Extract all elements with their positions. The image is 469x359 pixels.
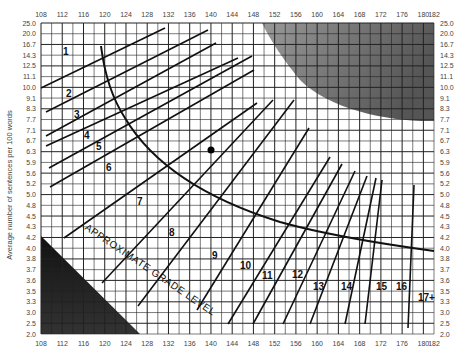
y-tick-label: 7.7 — [26, 116, 36, 123]
y-tick-label: 5.9 — [440, 159, 450, 166]
y-tick-label: 4.5 — [26, 213, 36, 220]
x-tick-label: 112 — [57, 340, 68, 347]
grade-label-1: 1 — [63, 46, 69, 57]
y-tick-label: 6.3 — [440, 148, 450, 155]
y-tick-label: 4.2 — [440, 234, 450, 241]
y-tick-label: 14.3 — [22, 52, 36, 59]
y-tick-label: 5.2 — [440, 180, 450, 187]
y-tick-label: 12.5 — [22, 62, 36, 69]
grade-line-2 — [46, 30, 208, 112]
grade-label-7: 7 — [137, 196, 143, 207]
grade-label-3: 3 — [74, 109, 80, 120]
x-tick-label: 140 — [205, 11, 217, 18]
y-tick-label: 25.0 — [22, 20, 36, 27]
y-axis-right: 25.020.016.714.312.511.110.09.18.37.77.1… — [440, 20, 454, 338]
grade-line-11 — [228, 157, 330, 324]
y-tick-label: 3.0 — [440, 309, 450, 316]
y-tick-label: 6.7 — [440, 137, 450, 144]
x-tick-label: 112 — [57, 11, 68, 18]
grade-label-6: 6 — [106, 162, 112, 173]
x-tick-label: 120 — [99, 11, 111, 18]
fry-readability-graph: APPROXIMATE GRADE LEVEL 1081121161201241… — [0, 0, 469, 359]
x-tick-label: 182 — [428, 11, 440, 18]
grade-label-12: 12 — [292, 269, 304, 280]
y-tick-label: 5.0 — [26, 191, 36, 198]
y-tick-label: 8.3 — [26, 105, 36, 112]
x-tick-label: 128 — [141, 11, 153, 18]
y-tick-label: 4.2 — [26, 234, 36, 241]
grade-line-12 — [253, 164, 342, 324]
x-tick-label: 172 — [375, 340, 387, 347]
x-tick-label: 152 — [269, 11, 281, 18]
grade-label-14: 14 — [341, 281, 353, 292]
x-tick-label: 116 — [78, 11, 89, 18]
y-tick-label: 16.7 — [440, 41, 454, 48]
y-tick-label: 7.7 — [440, 116, 450, 123]
y-tick-label: 2.5 — [440, 320, 450, 327]
sample-point — [208, 147, 215, 154]
x-tick-label: 176 — [396, 340, 408, 347]
y-tick-label: 2.0 — [440, 331, 450, 338]
grade-label-16: 16 — [396, 281, 408, 292]
x-tick-label: 136 — [184, 11, 196, 18]
y-tick-label: 20.0 — [440, 30, 454, 37]
y-tick-label: 8.3 — [440, 105, 450, 112]
y-tick-label: 3.8 — [26, 255, 36, 262]
y-tick-label: 6.7 — [26, 137, 36, 144]
x-tick-label: 164 — [333, 340, 345, 347]
x-tick-label: 160 — [311, 11, 323, 18]
x-tick-label: 148 — [248, 11, 260, 18]
x-tick-label: 164 — [333, 11, 345, 18]
x-tick-label: 168 — [354, 11, 366, 18]
x-tick-label: 144 — [226, 11, 238, 18]
y-tick-label: 4.3 — [26, 223, 36, 230]
y-tick-label: 9.1 — [26, 95, 36, 102]
x-tick-label: 140 — [205, 340, 217, 347]
y-tick-label: 3.7 — [440, 266, 450, 273]
x-tick-label: 116 — [78, 340, 89, 347]
grade-label-15: 15 — [376, 281, 388, 292]
y-tick-label: 4.8 — [26, 202, 36, 209]
grade-label-5: 5 — [96, 141, 102, 152]
y-tick-label: 3.8 — [440, 255, 450, 262]
x-tick-label: 108 — [35, 11, 47, 18]
x-tick-label: 172 — [375, 11, 387, 18]
y-tick-label: 4.0 — [26, 245, 36, 252]
y-tick-label: 10.0 — [22, 84, 36, 91]
x-tick-label: 182 — [428, 340, 440, 347]
y-tick-label: 10.0 — [440, 84, 454, 91]
x-tick-label: 144 — [226, 340, 238, 347]
x-axis-bottom: 1081121161201241281321361401441481521561… — [35, 340, 440, 347]
y-tick-label: 3.5 — [26, 288, 36, 295]
x-axis-top: 1081121161201241281321361401441481521561… — [35, 11, 440, 18]
y-tick-label: 4.0 — [440, 245, 450, 252]
y-tick-label: 12.5 — [440, 62, 454, 69]
x-tick-label: 168 — [354, 340, 366, 347]
y-tick-label: 9.1 — [440, 95, 450, 102]
shaded-region-top-right — [262, 23, 434, 121]
x-tick-label: 132 — [163, 11, 175, 18]
y-tick-label: 2.0 — [26, 331, 36, 338]
y-tick-label: 5.6 — [440, 170, 450, 177]
y-tick-label: 3.7 — [26, 266, 36, 273]
x-tick-label: 152 — [269, 340, 281, 347]
y-tick-label: 3.3 — [26, 298, 36, 305]
y-tick-label: 6.3 — [26, 148, 36, 155]
y-tick-label: 11.1 — [440, 73, 453, 80]
grade-label-10: 10 — [240, 260, 252, 271]
y-axis-label: Average number of sentences per 100 word… — [5, 110, 14, 260]
y-tick-label: 3.5 — [440, 288, 450, 295]
grade-label-9: 9 — [212, 250, 218, 261]
y-tick-label: 7.1 — [440, 127, 450, 134]
y-tick-label: 7.1 — [26, 127, 36, 134]
x-tick-label: 124 — [120, 340, 132, 347]
x-tick-label: 136 — [184, 340, 196, 347]
y-axis-left: 25.020.016.714.312.511.110.09.18.37.77.1… — [22, 20, 36, 338]
x-tick-label: 120 — [99, 340, 111, 347]
grade-label-2: 2 — [66, 88, 72, 99]
grade-label-11: 11 — [262, 270, 273, 281]
y-tick-label: 3.6 — [26, 277, 36, 284]
y-tick-label: 25.0 — [440, 20, 454, 27]
y-tick-label: 3.6 — [440, 277, 450, 284]
x-tick-label: 128 — [141, 340, 153, 347]
